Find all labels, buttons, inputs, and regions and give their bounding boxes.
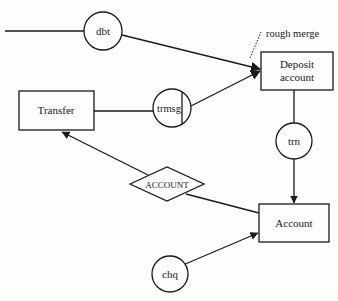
- edge-trmsg-to-deposit-account: [191, 71, 260, 106]
- node-transfer-label: Transfer: [38, 104, 75, 116]
- node-trn[interactable]: trn: [276, 123, 312, 159]
- node-account-label: Account: [275, 217, 312, 229]
- diagram-canvas: dbt Deposit account rough merge Transfer…: [0, 0, 338, 301]
- edge-dbt-to-deposit-account: [122, 35, 260, 69]
- node-account-store-label: ACCOUNT: [145, 180, 189, 190]
- node-dbt-label: dbt: [96, 25, 110, 37]
- node-trmsg[interactable]: trmsg: [153, 89, 191, 127]
- node-deposit-account-label-line1: Deposit: [280, 58, 314, 70]
- node-trmsg-label: trmsg: [157, 103, 182, 114]
- node-deposit-account[interactable]: Deposit account: [261, 52, 333, 90]
- node-trn-label: trn: [288, 135, 301, 147]
- node-transfer[interactable]: Transfer: [19, 91, 94, 130]
- node-chq-label: chq: [162, 268, 178, 280]
- node-deposit-account-label-line2: account: [280, 71, 314, 83]
- rough-merge-pointer: [250, 32, 261, 58]
- edge-chq-to-account: [183, 233, 258, 265]
- node-dbt[interactable]: dbt: [84, 12, 122, 50]
- edge-account-store-to-transfer: [62, 132, 148, 175]
- diagram-svg: dbt Deposit account rough merge Transfer…: [0, 0, 338, 301]
- edge-account-to-account-store: [186, 194, 259, 213]
- rough-merge-annotation: rough merge: [266, 28, 320, 39]
- node-account[interactable]: Account: [259, 204, 329, 242]
- node-chq[interactable]: chq: [152, 256, 188, 292]
